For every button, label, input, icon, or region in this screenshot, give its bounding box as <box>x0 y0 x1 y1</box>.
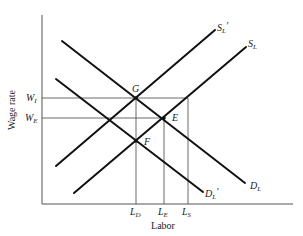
tick-sub: D <box>135 211 141 219</box>
curve-label-sub: L <box>256 185 261 193</box>
curve-label-prime: ′ <box>216 186 219 197</box>
tick-sub: S <box>188 211 192 219</box>
point-e-marker <box>162 116 166 120</box>
x-axis-label: Labor <box>151 220 176 231</box>
demand-curve-dl <box>62 41 245 183</box>
point-f-marker <box>134 139 138 143</box>
point-g-marker <box>134 96 138 100</box>
x-tick-ls: LS <box>181 206 192 219</box>
curve-label-dl-prime: DL′ <box>204 186 219 201</box>
y-tick-wi: WI <box>26 92 37 105</box>
tick-sub: E <box>32 117 38 125</box>
curve-label-sub: L <box>252 43 257 51</box>
point-e-label: E <box>171 112 178 123</box>
curve-label-sl: SL <box>248 38 257 51</box>
point-g-label: G <box>132 83 139 94</box>
x-tick-le: LE <box>157 206 169 219</box>
demand-curve-dl-prime <box>56 79 203 192</box>
supply-curve-sl <box>74 47 246 193</box>
x-tick-ld: LD <box>129 206 141 219</box>
curve-label-prime: ′ <box>226 20 229 31</box>
y-axis-label: Wage rate <box>6 89 17 130</box>
tick-sub: I <box>33 97 37 105</box>
point-f-label: F <box>143 136 151 147</box>
curve-label-dl: DL <box>249 180 261 193</box>
curve-label-sl-prime: SL′ <box>217 20 229 35</box>
y-tick-we: WE <box>25 112 38 125</box>
tick-sub: E <box>163 211 169 219</box>
labor-market-diagram: G E F SL′ SL DL DL′ WI WE LD LE LS Labor… <box>0 0 303 236</box>
